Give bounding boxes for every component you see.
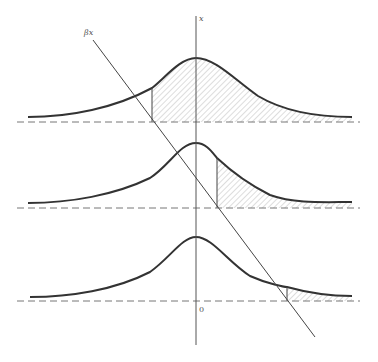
shaded-tail-region bbox=[152, 58, 352, 122]
panel-top bbox=[17, 58, 360, 122]
diagram: x βx 0 bbox=[0, 0, 378, 362]
shaded-tail-region bbox=[217, 158, 352, 208]
panel-middle bbox=[17, 143, 360, 208]
panel-bottom bbox=[17, 237, 360, 301]
axis-label-x: x bbox=[199, 14, 204, 23]
line-label-beta-x: βx bbox=[83, 28, 94, 37]
density-curve bbox=[28, 143, 352, 203]
origin-label: 0 bbox=[199, 305, 204, 314]
density-curve bbox=[30, 237, 352, 297]
